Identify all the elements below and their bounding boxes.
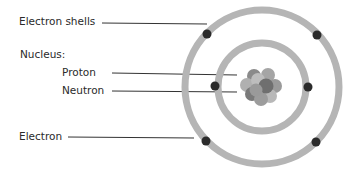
electron-icon	[203, 30, 212, 39]
nucleus	[240, 68, 282, 106]
atom-diagram	[0, 0, 361, 175]
leader-line-electron	[68, 137, 194, 138]
electron-icon	[313, 31, 322, 40]
electron-icon	[312, 138, 321, 147]
neutron-icon	[250, 84, 263, 97]
leader-lines	[68, 23, 237, 138]
leader-line-shells	[102, 23, 207, 24]
electron-icon	[202, 137, 211, 146]
electron-icon	[211, 82, 220, 91]
electron-icon	[304, 83, 313, 92]
